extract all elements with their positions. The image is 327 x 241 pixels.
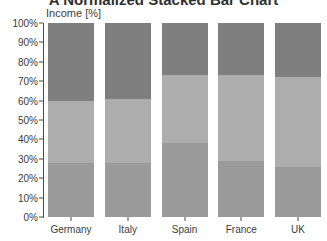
plot-area: 0%10%20%30%40%50%60%70%80%90%100% German… <box>43 23 321 217</box>
chart-root: A Normalized Stacked Bar Chart Income [%… <box>0 0 327 241</box>
bar-stack[interactable] <box>218 23 264 217</box>
bar-segment[interactable] <box>48 163 94 217</box>
bar-column[interactable]: Italy <box>105 23 151 217</box>
y-axis-tick-label: 50% <box>18 115 38 126</box>
bar-segment[interactable] <box>162 143 208 217</box>
bar-column[interactable]: France <box>218 23 264 217</box>
x-axis-tick-label: UK <box>291 224 305 235</box>
bar-segment[interactable] <box>218 161 264 217</box>
y-axis-tick-label: 0% <box>24 212 38 223</box>
x-axis-tick-label: Italy <box>119 224 137 235</box>
bar-column[interactable]: UK <box>275 23 321 217</box>
bar-segment[interactable] <box>105 163 151 217</box>
y-axis-tick-label: 20% <box>18 173 38 184</box>
bar-segment[interactable] <box>218 23 264 75</box>
x-axis-tick-label: Germany <box>50 224 91 235</box>
bar-segment[interactable] <box>162 23 208 75</box>
bar-stack[interactable] <box>105 23 151 217</box>
y-axis-title: Income [%] <box>46 7 101 19</box>
x-axis-tick-mark <box>298 217 299 221</box>
y-axis-tick-label: 90% <box>18 37 38 48</box>
x-axis-tick-label: Spain <box>172 224 198 235</box>
x-axis-tick-mark <box>127 217 128 221</box>
x-axis-tick-mark <box>184 217 185 221</box>
bar-segment[interactable] <box>275 77 321 166</box>
bar-segment[interactable] <box>48 23 94 101</box>
bar-stack[interactable] <box>162 23 208 217</box>
bar-group: GermanyItalySpainFranceUK <box>43 23 321 217</box>
bar-stack[interactable] <box>275 23 321 217</box>
y-axis-tick-label: 70% <box>18 76 38 87</box>
x-axis-tick-mark <box>241 217 242 221</box>
bar-segment[interactable] <box>105 23 151 99</box>
bar-segment[interactable] <box>275 167 321 217</box>
y-axis-tick-label: 10% <box>18 192 38 203</box>
bar-segment[interactable] <box>162 75 208 143</box>
y-axis-tick-label: 40% <box>18 134 38 145</box>
y-axis-tick-label: 80% <box>18 56 38 67</box>
x-axis-tick-label: France <box>226 224 257 235</box>
bar-segment[interactable] <box>218 75 264 160</box>
bar-column[interactable]: Spain <box>162 23 208 217</box>
y-axis-tick-label: 60% <box>18 95 38 106</box>
bar-column[interactable]: Germany <box>48 23 94 217</box>
bar-segment[interactable] <box>275 23 321 77</box>
x-axis-tick-mark <box>71 217 72 221</box>
bar-segment[interactable] <box>105 99 151 163</box>
y-axis-tick-label: 100% <box>12 18 38 29</box>
bar-stack[interactable] <box>48 23 94 217</box>
bar-segment[interactable] <box>48 101 94 163</box>
y-axis-tick-label: 30% <box>18 153 38 164</box>
